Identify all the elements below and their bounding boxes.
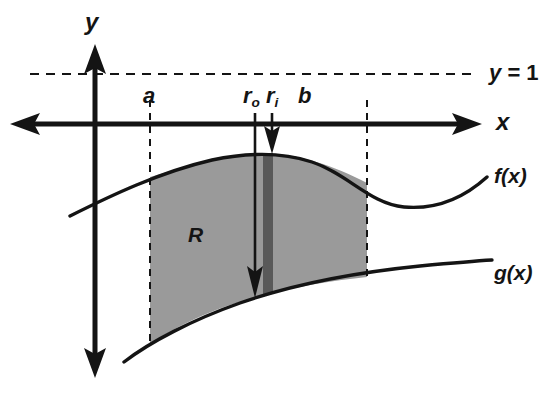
outer-radius-label: ro bbox=[243, 85, 260, 109]
outer-radius-label-subscript: o bbox=[252, 95, 260, 110]
right-bound-label: b bbox=[298, 85, 311, 107]
inner-radius-label-subscript: i bbox=[275, 95, 279, 110]
axis-of-revolution-label: y = 1 bbox=[489, 62, 539, 84]
inner-radius-label-base: r bbox=[266, 83, 275, 108]
inner-radius-label: ri bbox=[266, 85, 278, 109]
x-axis-label: x bbox=[496, 110, 509, 134]
axis-of-revolution-variable: y bbox=[489, 60, 501, 85]
curve-label-g: g(x) bbox=[494, 262, 533, 283]
curve-label-f: f(x) bbox=[494, 165, 527, 186]
washer-strip bbox=[263, 150, 273, 300]
left-bound-label: a bbox=[143, 85, 155, 107]
figure-graphics bbox=[0, 0, 540, 396]
region-label-R: R bbox=[188, 224, 203, 245]
shaded-region-R bbox=[150, 154, 367, 344]
figure-canvas: y x a b ro ri R f(x) g(x) y = 1 bbox=[0, 0, 540, 396]
outer-radius-label-base: r bbox=[243, 83, 252, 108]
axis-of-revolution-equation: = 1 bbox=[507, 60, 538, 85]
y-axis-label: y bbox=[85, 10, 98, 34]
